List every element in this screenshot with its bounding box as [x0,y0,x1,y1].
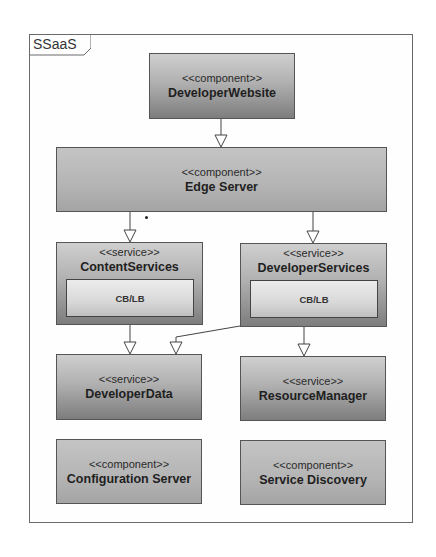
cb-lb-component[interactable]: CB/LB [66,279,194,317]
cb-lb-label: CB/LB [115,293,144,304]
node-resource-manager[interactable]: <<service>> ResourceManager [240,356,386,421]
stereotype-label: <<component>> [57,457,201,471]
stereotype-label: <<service>> [57,372,201,386]
node-name: DeveloperData [57,386,201,402]
stereotype-label: <<component>> [241,458,385,472]
stereotype-label: <<service>> [57,245,202,259]
node-name: DeveloperServices [241,260,386,276]
node-name: Edge Server [57,179,386,195]
cb-lb-label: CB/LB [299,294,328,305]
node-service-discovery[interactable]: <<component>> Service Discovery [240,440,386,505]
node-developer-services[interactable]: <<service>> DeveloperServices CB/LB [240,243,387,327]
node-content-services[interactable]: <<service>> ContentServices CB/LB [56,242,203,325]
stereotype-label: <<service>> [241,246,386,260]
node-name: ResourceManager [241,388,385,404]
node-name: ContentServices [57,259,202,275]
node-name: Configuration Server [57,471,201,487]
stereotype-label: <<service>> [241,374,385,388]
node-developer-website[interactable]: <<component>> DeveloperWebsite [149,53,295,119]
package-tab: SSaaS [29,34,91,55]
stray-mark [145,216,148,219]
stereotype-label: <<component>> [57,165,386,179]
node-name: Service Discovery [241,472,385,488]
node-name: DeveloperWebsite [150,85,294,101]
node-edge-server[interactable]: <<component>> Edge Server [56,147,387,212]
node-developer-data[interactable]: <<service>> DeveloperData [56,354,202,420]
node-configuration-server[interactable]: <<component>> Configuration Server [56,439,202,504]
cb-lb-component[interactable]: CB/LB [250,280,378,318]
package-label: SSaaS [33,36,77,52]
stereotype-label: <<component>> [150,71,294,85]
